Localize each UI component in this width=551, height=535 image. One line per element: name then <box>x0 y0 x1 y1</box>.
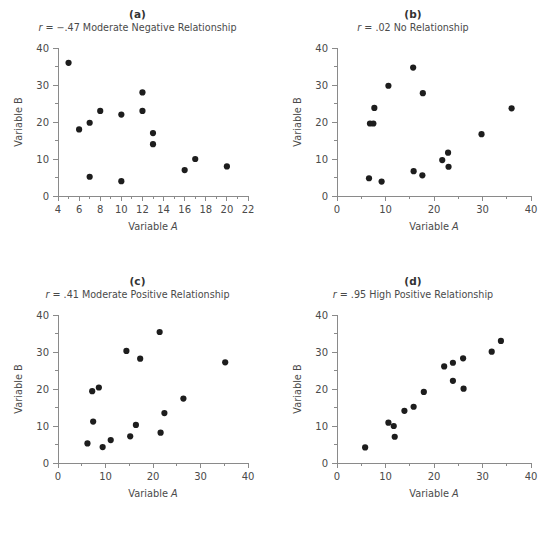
data-point <box>392 434 398 440</box>
panel-c-xtick-10: 10 <box>99 471 112 482</box>
panel-a-xtick-10: 10 <box>115 204 128 215</box>
data-point <box>385 83 391 89</box>
panel-c-ytick-10: 10 <box>36 421 49 432</box>
panel-d-plot-area: 010203040010203040Variable AVariable B <box>275 267 551 535</box>
panel-d-xaxis-title: Variable A <box>409 488 459 499</box>
panel-d-ytick-20: 20 <box>315 384 328 395</box>
panel-a-yaxis-title: Variable B <box>13 97 24 147</box>
panel-c-xtick-0: 0 <box>55 471 61 482</box>
panel-d-svg: 010203040010203040Variable AVariable B <box>275 267 551 535</box>
panel-a-xtick-8: 8 <box>97 204 103 215</box>
panel-d-ytick-30: 30 <box>315 347 328 358</box>
panel-d-xtick-40: 40 <box>525 471 538 482</box>
panel-c-ytick-20: 20 <box>36 384 49 395</box>
panel-c-xtick-40: 40 <box>242 471 255 482</box>
panel-c-xtick-20: 20 <box>147 471 160 482</box>
data-point <box>450 360 456 366</box>
data-point <box>76 126 82 132</box>
panel-d-xtick-0: 0 <box>334 471 340 482</box>
panel-b: (b) r = .02 No Relationship 010203040010… <box>275 0 551 267</box>
panel-b-xtick-30: 30 <box>476 204 489 215</box>
data-point <box>65 60 71 66</box>
data-point <box>118 178 124 184</box>
data-point <box>87 120 93 126</box>
panel-b-ytick-40: 40 <box>315 43 328 54</box>
data-point <box>180 396 186 402</box>
panel-a-xaxis-title: Variable A <box>128 221 178 232</box>
data-point <box>137 356 143 362</box>
panel-b-yaxis-title: Variable B <box>292 97 303 147</box>
data-point <box>420 90 426 96</box>
data-point <box>84 440 90 446</box>
panel-a-ytick-20: 20 <box>36 117 49 128</box>
data-point <box>450 378 456 384</box>
panel-d-ytick-40: 40 <box>315 310 328 321</box>
panel-c-plot-area: 010203040010203040Variable AVariable B <box>0 267 275 535</box>
panel-d: (d) r = .95 High Positive Relationship 0… <box>275 267 551 535</box>
data-point <box>123 348 129 354</box>
panel-c-ytick-40: 40 <box>36 310 49 321</box>
data-point <box>158 430 164 436</box>
data-point <box>385 420 391 426</box>
panel-b-xtick-20: 20 <box>428 204 441 215</box>
data-point <box>139 108 145 114</box>
panel-a: (a) r = −.47 Moderate Negative Relations… <box>0 0 275 267</box>
panel-d-ytick-0: 0 <box>322 458 328 469</box>
data-point <box>150 130 156 136</box>
panel-a-ytick-10: 10 <box>36 154 49 165</box>
panel-d-xtick-10: 10 <box>379 471 392 482</box>
panel-d-yaxis-title: Variable B <box>292 364 303 414</box>
data-point <box>509 105 515 111</box>
data-point <box>411 168 417 174</box>
data-point <box>108 437 114 443</box>
panel-a-xtick-14: 14 <box>157 204 170 215</box>
panel-c: (c) r = .41 Moderate Positive Relationsh… <box>0 267 275 535</box>
panel-b-ytick-30: 30 <box>315 80 328 91</box>
data-point <box>150 141 156 147</box>
data-point <box>445 164 451 170</box>
panel-a-xtick-22: 22 <box>242 204 255 215</box>
panel-d-xtick-30: 30 <box>476 471 489 482</box>
data-point <box>419 172 425 178</box>
data-point <box>445 150 451 156</box>
data-point <box>370 120 376 126</box>
panel-a-xtick-20: 20 <box>221 204 234 215</box>
panel-c-svg: 010203040010203040Variable AVariable B <box>0 267 275 535</box>
scatterplot-figure-grid: (a) r = −.47 Moderate Negative Relations… <box>0 0 551 535</box>
data-point <box>460 355 466 361</box>
panel-b-xtick-10: 10 <box>379 204 392 215</box>
panel-b-plot-area: 010203040010203040Variable AVariable B <box>275 0 551 267</box>
panel-d-ytick-10: 10 <box>315 421 328 432</box>
data-point <box>411 404 417 410</box>
panel-a-xtick-6: 6 <box>76 204 82 215</box>
panel-c-xaxis-title: Variable A <box>128 488 178 499</box>
panel-a-ytick-30: 30 <box>36 80 49 91</box>
data-point <box>439 157 445 163</box>
panel-d-xtick-20: 20 <box>428 471 441 482</box>
panel-a-xtick-4: 4 <box>55 204 61 215</box>
data-point <box>161 410 167 416</box>
data-point <box>401 408 407 414</box>
data-point <box>498 338 504 344</box>
data-point <box>127 433 133 439</box>
panel-b-xtick-40: 40 <box>525 204 538 215</box>
data-point <box>90 418 96 424</box>
data-point <box>391 423 397 429</box>
data-point <box>366 175 372 181</box>
panel-b-ytick-10: 10 <box>315 154 328 165</box>
data-point <box>182 167 188 173</box>
data-point <box>489 349 495 355</box>
panel-a-ytick-40: 40 <box>36 43 49 54</box>
data-point <box>410 65 416 71</box>
data-point <box>133 422 139 428</box>
data-point <box>224 163 230 169</box>
panel-c-ytick-0: 0 <box>43 458 49 469</box>
data-point <box>362 444 368 450</box>
data-point <box>118 112 124 118</box>
panel-a-xtick-18: 18 <box>199 204 212 215</box>
data-point <box>478 131 484 137</box>
panel-c-yaxis-title: Variable B <box>13 364 24 414</box>
panel-b-xaxis-title: Variable A <box>409 221 459 232</box>
panel-a-xtick-12: 12 <box>136 204 149 215</box>
panel-a-plot-area: 01020304046810121416182022Variable AVari… <box>0 0 275 267</box>
